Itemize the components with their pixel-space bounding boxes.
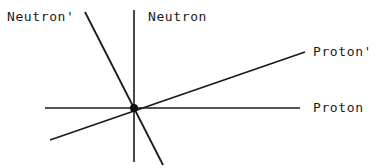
label-neutron-prime: Neutron' <box>7 10 74 23</box>
label-proton-prime: Proton' <box>313 45 372 58</box>
proton-prime-vector-line <box>50 52 305 140</box>
neutron-prime-vector-line <box>85 12 163 165</box>
label-neutron: Neutron <box>148 10 207 23</box>
interaction-vertex-dot <box>130 104 138 112</box>
label-proton: Proton <box>313 101 364 114</box>
scattering-vector-canvas <box>0 0 380 168</box>
scattering-diagram: Neutron' Neutron Proton' Proton <box>0 0 380 168</box>
